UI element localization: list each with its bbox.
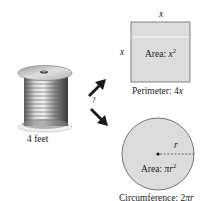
square-top-var: x <box>159 9 163 19</box>
question-mark: ? <box>92 97 96 105</box>
circumference-label: Circumference: 2πr <box>119 194 194 201</box>
spool-length-label: 4 feet <box>27 135 48 145</box>
square-area-prefix: Area: <box>145 49 168 59</box>
radius-label: r <box>174 141 178 151</box>
wire-spool-icon <box>18 66 72 133</box>
radius-var: r <box>174 140 178 150</box>
perimeter-prefix: Perimeter: 4 <box>132 86 179 96</box>
circumference-prefix: Circumference: 2 <box>119 193 185 201</box>
circle-area-exponent: 2 <box>173 162 176 169</box>
circle-area-prefix: Area: <box>141 164 164 174</box>
square-area-exponent: 2 <box>173 47 176 54</box>
arrow-down-right-icon <box>90 108 108 126</box>
circle-shape <box>122 118 194 190</box>
perimeter-var: x <box>179 86 183 96</box>
square-left-var: x <box>120 47 124 57</box>
circumference-var: πr <box>185 193 193 201</box>
square-left-side-label: x <box>120 48 124 58</box>
circle-area-expr: πr <box>164 164 172 174</box>
square-area-label: Area: x2 <box>145 48 176 60</box>
perimeter-label: Perimeter: 4x <box>132 87 183 97</box>
square-top-side-label: x <box>159 10 163 20</box>
circle-area-label: Area: πr2 <box>141 163 176 175</box>
arrow-up-right-icon <box>88 79 106 97</box>
